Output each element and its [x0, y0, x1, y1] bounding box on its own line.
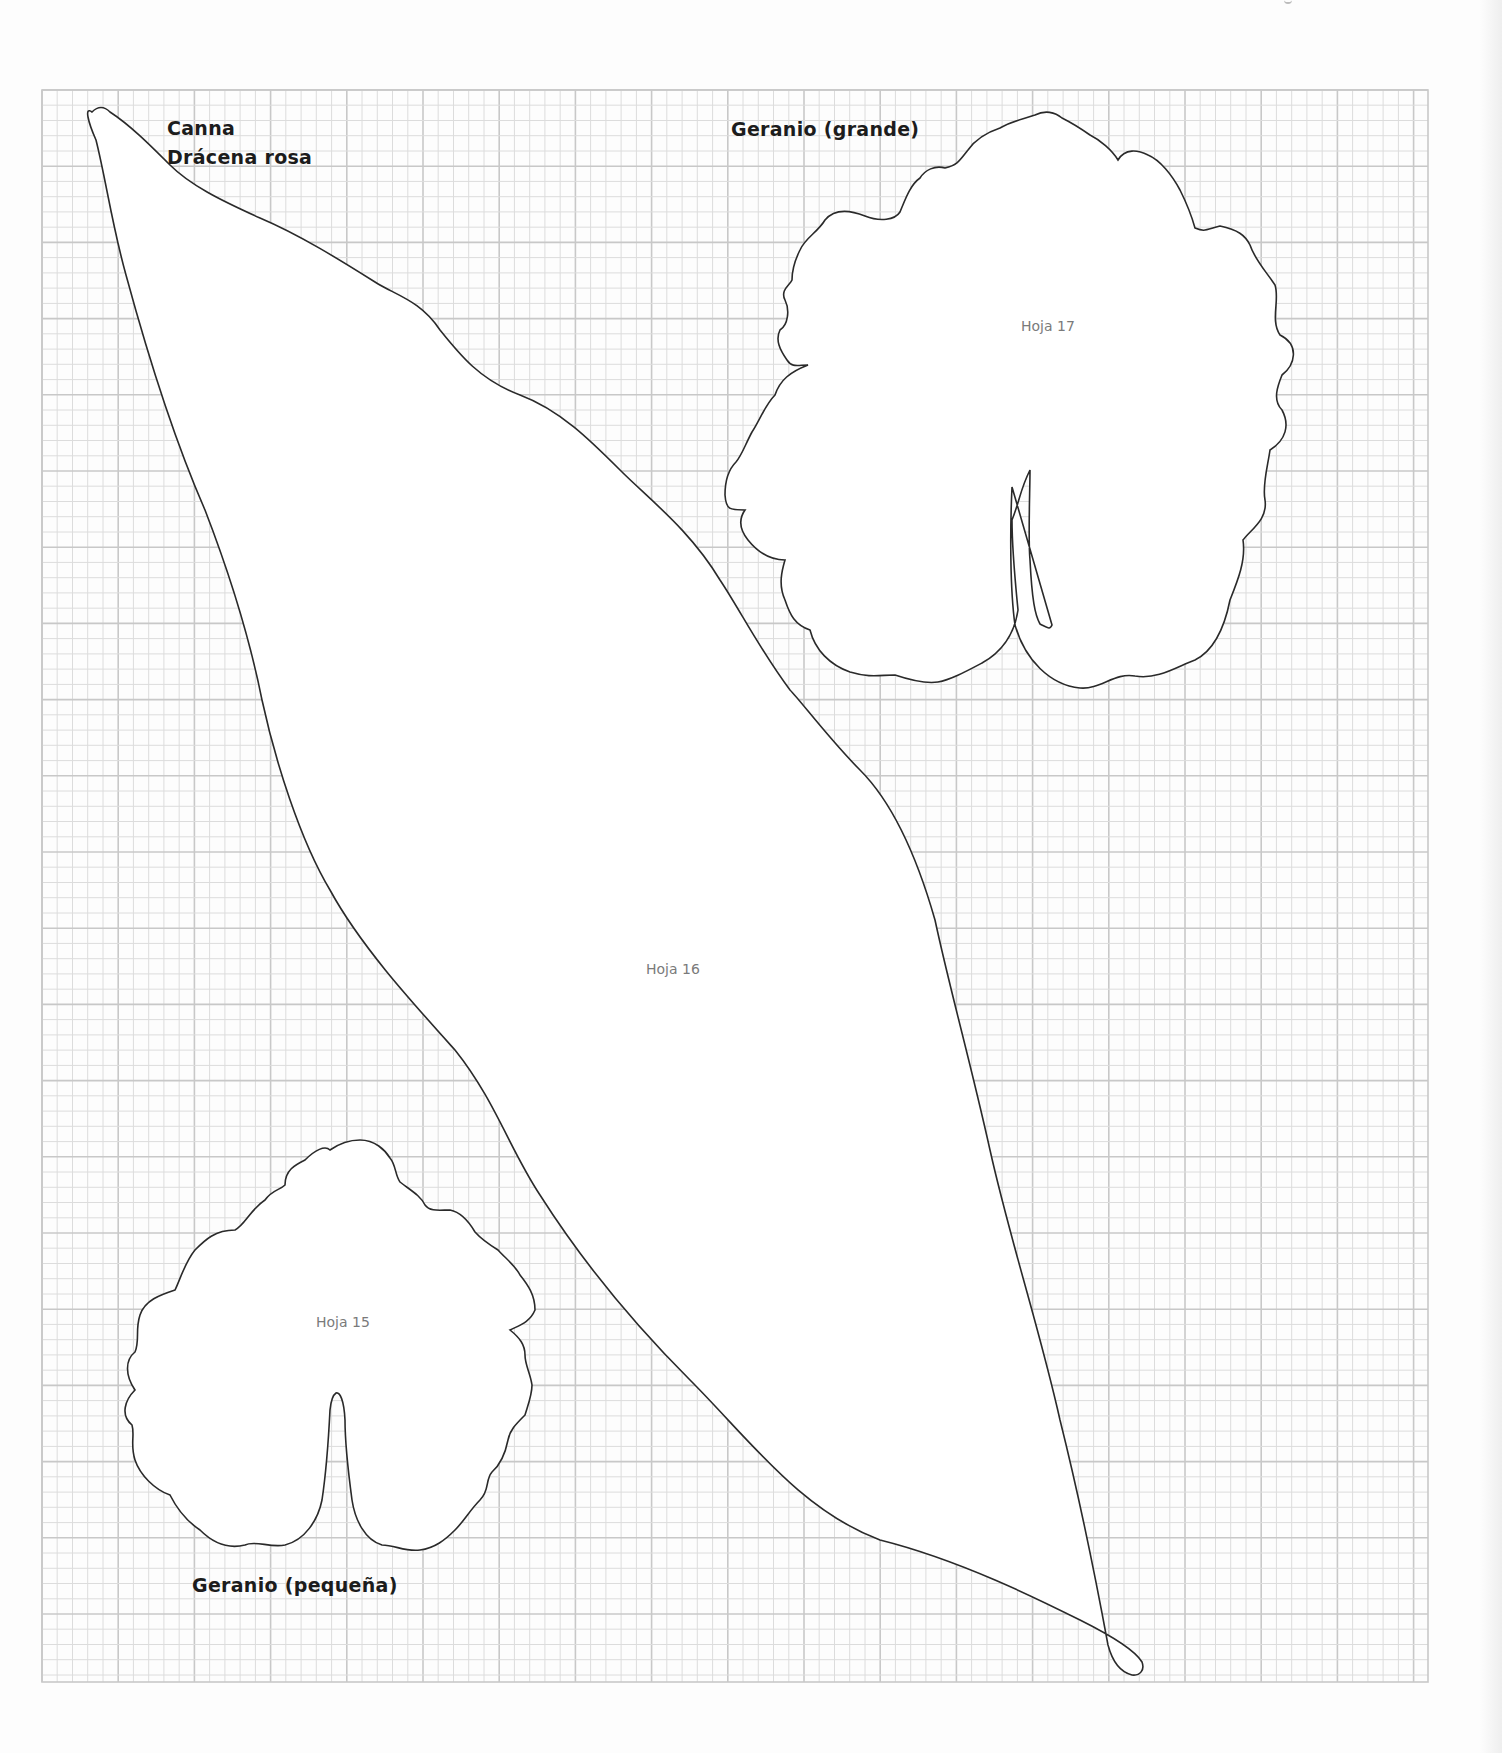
- piece-label-hoja-17: Hoja 17: [1021, 318, 1075, 334]
- leaf-outlines: [0, 0, 1502, 1753]
- page-edge-shadow: [1480, 0, 1502, 1753]
- canna-title-line-2: Drácena rosa: [167, 143, 312, 172]
- geranio-grande-title: Geranio (grande): [731, 115, 919, 144]
- pattern-sheet: Canna Drácena rosa Geranio (grande) Gera…: [0, 0, 1502, 1753]
- geranio-pequena-outline: [125, 1140, 535, 1550]
- geranio-pequena-title: Geranio (pequeña): [192, 1571, 398, 1600]
- geranio-grande-outline: [725, 112, 1293, 688]
- canna-title-line-1: Canna: [167, 114, 312, 143]
- piece-label-hoja-15: Hoja 15: [316, 1314, 370, 1330]
- canna-title: Canna Drácena rosa: [167, 114, 312, 172]
- piece-label-hoja-16: Hoja 16: [646, 961, 700, 977]
